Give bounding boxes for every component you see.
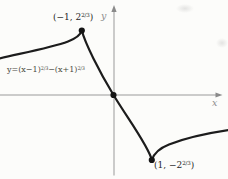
equation-exponent-2: 2/3 — [77, 65, 84, 71]
equation-part-2: −(x+1) — [48, 65, 77, 74]
curve-right-branch — [152, 130, 228, 160]
function-plot-figure: (−1, 22/3) y=(x−1)2/3−(x+1)2/3 (1, −22/3… — [0, 0, 228, 179]
x-axis-label: x — [212, 98, 217, 108]
y-axis-arrowhead-icon — [111, 5, 116, 12]
point-label-top-close: ) — [90, 12, 94, 22]
equation-part-1: y=(x−1) — [7, 65, 41, 74]
curve-left-branch — [0, 31, 82, 59]
y-axis-label: y — [101, 11, 106, 21]
point-label-top-exponent: 2/3 — [81, 12, 89, 18]
point-marker-origin — [110, 92, 116, 98]
equation-label: y=(x−1)2/3−(x+1)2/3 — [7, 66, 85, 74]
point-label-bottom-exponent: 2/3 — [182, 160, 190, 166]
plot-canvas — [0, 0, 228, 179]
point-label-bottom-close: ) — [191, 160, 195, 170]
point-label-bottom: (1, −22/3) — [154, 161, 194, 170]
point-label-top: (−1, 22/3) — [53, 13, 93, 22]
equation-exponent-1: 2/3 — [41, 65, 48, 71]
point-label-bottom-text: (1, −2 — [154, 160, 182, 170]
point-label-top-text: (−1, 2 — [53, 12, 81, 22]
point-marker-top — [79, 27, 85, 33]
